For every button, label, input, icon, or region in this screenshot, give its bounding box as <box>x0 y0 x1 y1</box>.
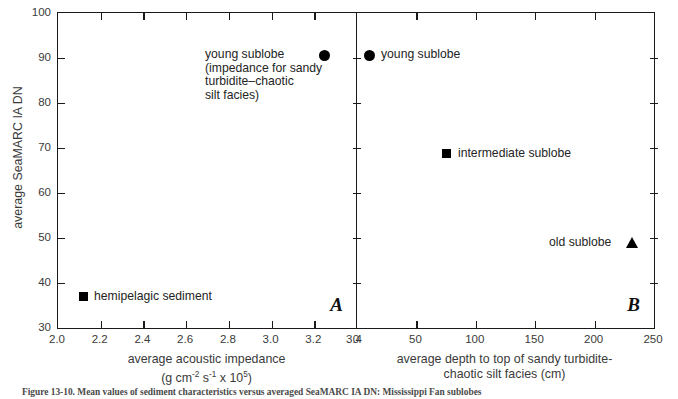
x-tick-label-a-2.4: 2.4 <box>128 333 156 345</box>
x-tick-b-100 <box>476 321 477 328</box>
x-tick-label-b-250: 250 <box>639 333 667 345</box>
x-tick-label-a-3.2: 3.2 <box>299 333 327 345</box>
annotation-young-sublobe-a: young sublobe (impedance for sandy turbi… <box>205 48 322 102</box>
y-tick-b-right-90 <box>650 58 658 59</box>
panel-label-a: A <box>330 294 343 316</box>
x-tick-label-b-150: 150 <box>520 333 548 345</box>
x-tick-a-top-3.2 <box>314 13 315 20</box>
x-tick-a-top-2.8 <box>229 13 230 20</box>
annotation-old-sublobe: old sublobe <box>549 236 611 250</box>
x-tick-b-50 <box>416 321 417 328</box>
y-tick-b-40 <box>353 283 361 284</box>
x-axis-title-a-units-end: ) <box>248 371 252 385</box>
x-tick-label-b-200: 200 <box>580 333 608 345</box>
y-tick-b-right-50 <box>650 238 658 239</box>
x-tick-label-b-0: 0 <box>342 333 370 345</box>
y-tick-b-right-70 <box>650 148 658 149</box>
y-tick-b-70 <box>353 148 361 149</box>
y-tick-90 <box>58 58 65 59</box>
y-tick-label-70: 70 <box>23 141 51 153</box>
x-tick-a-3.0 <box>272 321 273 328</box>
x-tick-a-top-2.4 <box>143 13 144 20</box>
y-tick-80 <box>58 103 65 104</box>
data-point-intermediate-sublobe <box>442 149 451 158</box>
annotation-intermediate-sublobe: intermediate sublobe <box>458 147 571 161</box>
panel-b-plot-area: young sublobe intermediate sublobe old s… <box>356 12 655 329</box>
y-tick-60 <box>58 193 65 194</box>
data-point-old-sublobe <box>626 237 638 248</box>
x-tick-label-b-50: 50 <box>401 333 429 345</box>
y-tick-label-80: 80 <box>23 96 51 108</box>
figure-container: average SeaMARC IA DN 100 90 80 70 60 50… <box>0 0 678 399</box>
y-tick-label-50: 50 <box>23 231 51 243</box>
x-tick-a-top-2.6 <box>186 13 187 20</box>
x-tick-a-3.2 <box>314 321 315 328</box>
x-tick-b-200 <box>595 321 596 328</box>
x-axis-title-b-line2: chaotic silt facies (cm) <box>356 367 653 382</box>
y-tick-label-40: 40 <box>23 276 51 288</box>
y-tick-50 <box>58 238 65 239</box>
x-tick-label-a-3.0: 3.0 <box>257 333 285 345</box>
x-axis-title-b: average depth to top of sandy turbidite-… <box>356 352 653 382</box>
x-axis-title-a-line1: average acoustic impedance <box>57 352 356 367</box>
y-tick-b-50 <box>353 238 361 239</box>
annotation-hemipelagic-sediment: hemipelagic sediment <box>94 290 212 304</box>
y-tick-b-90 <box>353 58 361 59</box>
x-tick-b-top-100 <box>476 13 477 20</box>
y-tick-label-30: 30 <box>23 321 51 333</box>
panel-label-b: B <box>627 294 640 316</box>
y-tick-b-right-60 <box>650 193 658 194</box>
y-tick-b-60 <box>353 193 361 194</box>
x-tick-a-2.8 <box>229 321 230 328</box>
x-tick-a-2.6 <box>186 321 187 328</box>
figure-caption: Figure 13-10. Mean values of sediment ch… <box>22 387 662 397</box>
x-tick-label-a-2.0: 2.0 <box>43 333 71 345</box>
x-tick-label-a-2.2: 2.2 <box>86 333 114 345</box>
y-tick-label-60: 60 <box>23 186 51 198</box>
data-point-hemipelagic-sediment <box>79 292 88 301</box>
y-tick-b-80 <box>353 103 361 104</box>
annotation-young-sublobe-b: young sublobe <box>381 48 460 62</box>
x-axis-title-a: average acoustic impedance (g cm-2 s-1 x… <box>57 352 356 386</box>
x-axis-title-a-units-prefix: (g cm <box>161 371 192 385</box>
x-tick-label-a-2.8: 2.8 <box>214 333 242 345</box>
x-axis-title-a-line2: (g cm-2 s-1 x 105) <box>57 367 356 386</box>
x-axis-title-a-units-mid: s <box>199 371 209 385</box>
data-point-young-sublobe-b <box>364 50 375 61</box>
y-tick-label-100: 100 <box>23 6 51 18</box>
y-tick-40 <box>58 283 65 284</box>
x-tick-label-b-100: 100 <box>461 333 489 345</box>
x-tick-label-a-2.6: 2.6 <box>171 333 199 345</box>
x-tick-b-150 <box>535 321 536 328</box>
y-tick-b-right-40 <box>650 283 658 284</box>
y-tick-70 <box>58 148 65 149</box>
x-tick-a-2.4 <box>143 321 144 328</box>
x-axis-title-a-units-suffix: x 10 <box>216 371 243 385</box>
x-tick-b-top-150 <box>535 13 536 20</box>
x-tick-b-top-200 <box>595 13 596 20</box>
y-tick-label-90: 90 <box>23 51 51 63</box>
panel-a-plot-area: young sublobe (impedance for sandy turbi… <box>57 12 357 329</box>
x-tick-a-top-3.0 <box>272 13 273 20</box>
x-tick-b-top-50 <box>416 13 417 20</box>
x-axis-title-b-line1: average depth to top of sandy turbidite- <box>356 352 653 367</box>
x-tick-a-top-2.2 <box>101 13 102 20</box>
y-tick-b-right-80 <box>650 103 658 104</box>
x-tick-a-2.2 <box>101 321 102 328</box>
